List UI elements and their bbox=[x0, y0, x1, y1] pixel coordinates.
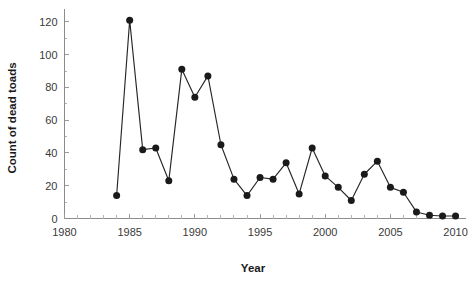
x-tick-label: 2000 bbox=[313, 226, 337, 238]
y-axis: 020406080100120 bbox=[39, 9, 68, 225]
data-point bbox=[348, 197, 355, 204]
y-tick-label: 20 bbox=[45, 180, 57, 192]
data-point bbox=[152, 145, 159, 152]
x-tick-label: 1985 bbox=[117, 226, 141, 238]
x-axis-major-ticks bbox=[65, 214, 456, 219]
x-tick-label: 1990 bbox=[183, 226, 207, 238]
data-point bbox=[322, 172, 329, 179]
chart-container: 020406080100120 198019851990199520002005… bbox=[0, 0, 475, 281]
y-tick-label: 40 bbox=[45, 147, 57, 159]
data-point bbox=[139, 146, 146, 153]
x-tick-label: 2010 bbox=[443, 226, 467, 238]
data-point bbox=[165, 177, 172, 184]
data-point bbox=[452, 213, 459, 220]
data-point bbox=[270, 176, 277, 183]
data-point bbox=[283, 159, 290, 166]
y-axis-title: Count of dead toads bbox=[6, 62, 18, 173]
data-point bbox=[126, 17, 133, 24]
data-point bbox=[257, 174, 264, 181]
x-tick-label: 1980 bbox=[52, 226, 76, 238]
x-axis-title: Year bbox=[241, 262, 266, 274]
data-point bbox=[426, 212, 433, 219]
data-point bbox=[296, 190, 303, 197]
data-point bbox=[374, 158, 381, 165]
data-point bbox=[204, 72, 211, 79]
data-point bbox=[400, 189, 407, 196]
y-tick-label: 100 bbox=[39, 49, 57, 61]
data-point bbox=[387, 184, 394, 191]
data-point bbox=[217, 141, 224, 148]
line-chart: 020406080100120 198019851990199520002005… bbox=[0, 0, 475, 281]
x-tick-label: 1995 bbox=[248, 226, 272, 238]
y-tick-label: 120 bbox=[39, 16, 57, 28]
data-point bbox=[191, 94, 198, 101]
series-line-dead-toads bbox=[117, 20, 456, 216]
x-axis: 1980198519901995200020052010 bbox=[52, 214, 468, 238]
y-tick-label: 60 bbox=[45, 114, 57, 126]
y-tick-label: 0 bbox=[51, 213, 57, 225]
y-tick-label: 80 bbox=[45, 81, 57, 93]
data-point bbox=[335, 184, 342, 191]
x-axis-tick-labels: 1980198519901995200020052010 bbox=[52, 226, 468, 238]
data-point bbox=[178, 66, 185, 73]
data-point bbox=[113, 192, 120, 199]
y-axis-tick-labels: 020406080100120 bbox=[39, 16, 57, 225]
series-markers-dead-toads bbox=[113, 17, 459, 220]
data-point bbox=[413, 208, 420, 215]
y-axis-ticks bbox=[65, 22, 69, 219]
data-point bbox=[309, 145, 316, 152]
data-point bbox=[361, 171, 368, 178]
x-tick-label: 2005 bbox=[378, 226, 402, 238]
data-point bbox=[439, 213, 446, 220]
data-point bbox=[244, 192, 251, 199]
data-point bbox=[230, 176, 237, 183]
